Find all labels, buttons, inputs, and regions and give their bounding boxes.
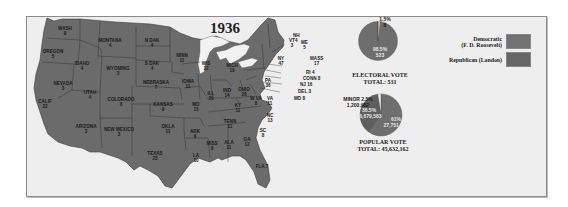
state-label-ala: ALA11 — [224, 140, 233, 150]
state-label-me: ME5 — [301, 40, 308, 50]
state-label-nc: NC13 — [267, 113, 274, 123]
state-label-mass: MASS17 — [310, 56, 323, 66]
state-label-ny: NY47 — [278, 56, 284, 66]
state-label-new-mexico: NEW MEXICO3 — [104, 127, 134, 137]
legend-democratic-swatch — [506, 34, 531, 49]
electoral-democratic-label: 98.5%523 — [373, 47, 387, 58]
state-label-mo: MO15 — [192, 102, 199, 112]
popular-democratic-label: 61%27,751,597 — [383, 117, 408, 128]
state-label-okla: OKLA11 — [161, 124, 174, 134]
state-label-oregon: OREGON5 — [43, 49, 63, 59]
state-label-pa: PA36 — [265, 78, 271, 88]
state-label-iowa: IOWA11 — [182, 79, 194, 89]
state-label-ga: GA12 — [244, 137, 251, 147]
us-electoral-map — [0, 0, 568, 207]
state-label-texas: TEXAS23 — [147, 151, 162, 161]
state-label-kansas: KANSAS9 — [153, 102, 172, 112]
state-label-miss: MISS9 — [206, 141, 217, 151]
state-label-s-dak: S DAK4 — [145, 61, 159, 71]
state-label-wis: WIS12 — [202, 61, 211, 71]
legend-democratic: Democratic(F. D. Roosevelt) — [449, 34, 531, 49]
state-label-ohio: OHIO26 — [238, 87, 250, 97]
state-label-w-va: W VA8 — [250, 96, 262, 106]
electoral-vote-caption: ELECTORAL VOTETOTAL: 531 — [352, 72, 408, 85]
state-label-idaho: IDAHO4 — [75, 61, 90, 71]
state-label-calif: CALIF22 — [38, 99, 52, 109]
legend-republican-label: Republican (Landon) — [449, 57, 502, 63]
state-label-colorado: COLORADO6 — [108, 97, 135, 107]
state-label-ri: RI 4 — [306, 70, 314, 75]
state-label-tenn: TENN11 — [224, 119, 237, 129]
state-label-ky: KY11 — [235, 103, 241, 113]
state-label-conn: CONN 8 — [303, 76, 320, 81]
state-label-fla: FLA 7 — [256, 164, 269, 169]
state-label-minn: MINN11 — [176, 53, 188, 63]
legend-democratic-candidate: (F. D. Roosevelt) — [461, 42, 502, 48]
state-label-wyoming: WYOMING3 — [107, 66, 130, 76]
state-label-utah: UTAH4 — [84, 90, 96, 100]
state-label-md: MD 8 — [294, 96, 305, 101]
state-label-nj: NJ 16 — [300, 82, 312, 87]
state-label-va: VA11 — [267, 96, 273, 106]
legend-republican-swatch — [506, 52, 531, 67]
state-label-del: DEL 3 — [298, 89, 311, 94]
state-label-nevada: NEVADA3 — [53, 81, 72, 91]
state-label-sc: SC8 — [260, 128, 266, 138]
state-label-ill: ILL29 — [208, 91, 215, 101]
electoral-republican-label: 1.5%8 — [379, 17, 390, 28]
state-label-mich: MICH19 — [226, 63, 238, 73]
state-label-wash: WASH8 — [58, 26, 72, 36]
popular-vote-caption: POPULAR VOTETOTAL: 45,632,162 — [358, 139, 409, 152]
legend-republican: Republican (Landon) — [449, 52, 531, 67]
legend: Democratic(F. D. Roosevelt) Republican (… — [449, 34, 531, 70]
state-label-montana: MONTANA4 — [98, 38, 121, 48]
state-label-ind: IND14 — [223, 88, 231, 98]
state-label-ark: ARK9 — [190, 129, 200, 139]
popular-republican-label: 36.5%16,679,583 — [356, 108, 381, 119]
state-label-nebraska: NEBRASKA7 — [143, 80, 169, 90]
state-label-arizona: ARIZONA3 — [76, 124, 97, 134]
state-label-la: LA10 — [193, 153, 199, 163]
election-year-title: 1936 — [210, 20, 240, 37]
state-label-nh: NH4 — [293, 33, 300, 43]
state-label-n-dak: N DAK4 — [145, 38, 160, 48]
